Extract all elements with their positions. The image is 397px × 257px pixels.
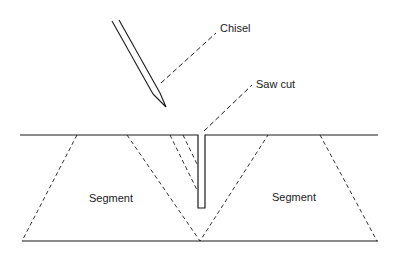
diagram-canvas bbox=[0, 0, 397, 257]
fracture-line-1 bbox=[170, 135, 197, 190]
segment-right-label: Segment bbox=[272, 191, 316, 203]
chisel-icon bbox=[112, 20, 166, 107]
right-segment-edge bbox=[320, 135, 377, 241]
fracture-line-2 bbox=[183, 135, 197, 164]
segment-left-label: Segment bbox=[89, 192, 133, 204]
top-surface-with-saw-cut bbox=[20, 135, 378, 208]
left-segment-edge bbox=[22, 135, 77, 241]
saw-cut-label: Saw cut bbox=[256, 78, 295, 90]
chisel-leader-line bbox=[161, 33, 216, 83]
saw-cut-leader-line bbox=[204, 85, 252, 131]
chisel-label: Chisel bbox=[220, 22, 251, 34]
